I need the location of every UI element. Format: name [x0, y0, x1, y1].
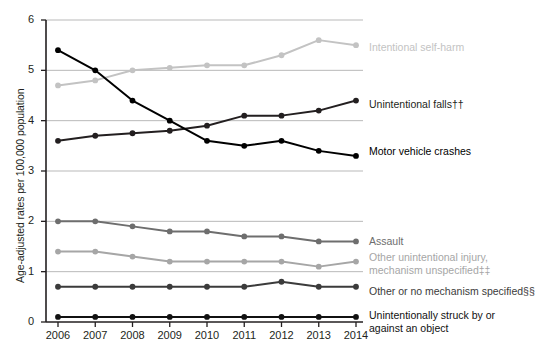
x-tick-label: 2009	[150, 329, 190, 341]
data-point	[130, 130, 136, 136]
data-point	[241, 234, 247, 240]
y-tick-label: 2	[14, 214, 34, 226]
x-tick-label: 2010	[187, 329, 227, 341]
data-point	[241, 62, 247, 68]
series-label-2: Motor vehicle crashes	[369, 145, 471, 158]
y-tick-label: 4	[14, 114, 34, 126]
data-point	[316, 108, 322, 114]
x-tick-label: 2007	[75, 329, 115, 341]
data-point	[167, 128, 173, 134]
gridlines	[46, 20, 363, 272]
data-point	[279, 138, 285, 144]
data-point	[316, 37, 322, 43]
data-point	[92, 218, 98, 224]
series-label-3: Assault	[369, 235, 403, 248]
x-tick-label: 2008	[113, 329, 153, 341]
data-point	[92, 284, 98, 290]
data-point	[92, 314, 98, 320]
data-point	[55, 218, 61, 224]
data-point	[204, 62, 210, 68]
data-point	[353, 284, 359, 290]
y-tick-label: 0	[14, 315, 34, 327]
y-tick-label: 5	[14, 63, 34, 75]
x-tick-label: 2013	[299, 329, 339, 341]
series-label-5: Other or no mechanism specified§§	[369, 285, 535, 298]
data-point	[92, 133, 98, 139]
series-label-4: Other unintentional injury, mechanism un…	[369, 251, 490, 276]
data-point	[167, 65, 173, 71]
data-point	[92, 67, 98, 73]
series-4	[55, 249, 359, 270]
data-point	[167, 229, 173, 235]
series-5	[55, 279, 359, 290]
data-point	[316, 148, 322, 154]
data-point	[279, 52, 285, 58]
data-point	[353, 259, 359, 265]
data-point	[92, 249, 98, 255]
data-point	[167, 259, 173, 265]
data-point	[167, 118, 173, 124]
x-tick-label: 2011	[224, 329, 264, 341]
data-point	[130, 67, 136, 73]
data-point	[130, 254, 136, 260]
data-point	[241, 284, 247, 290]
data-point	[167, 284, 173, 290]
series-0	[55, 37, 359, 88]
data-point	[241, 143, 247, 149]
data-point	[279, 314, 285, 320]
line-chart: Age-adjusted rates per 100,000 populatio…	[0, 0, 543, 353]
y-tick-label: 1	[14, 265, 34, 277]
data-point	[130, 223, 136, 229]
y-tick-label: 6	[14, 13, 34, 25]
data-point	[316, 314, 322, 320]
data-point	[279, 279, 285, 285]
data-point	[204, 229, 210, 235]
y-tick-label: 3	[14, 164, 34, 176]
data-point	[204, 259, 210, 265]
data-point	[204, 123, 210, 129]
data-point	[316, 284, 322, 290]
data-point	[55, 314, 61, 320]
data-point	[279, 234, 285, 240]
data-point	[204, 138, 210, 144]
data-point	[92, 78, 98, 84]
data-point	[316, 264, 322, 270]
series-3	[55, 218, 359, 244]
data-point	[204, 284, 210, 290]
data-point	[130, 314, 136, 320]
x-tick-label: 2006	[38, 329, 78, 341]
data-point	[55, 284, 61, 290]
data-point	[167, 314, 173, 320]
data-point	[279, 259, 285, 265]
data-point	[279, 113, 285, 119]
data-point	[55, 249, 61, 255]
x-tick-label: 2012	[262, 329, 302, 341]
series-label-1: Unintentional falls††	[369, 98, 464, 111]
data-point	[55, 138, 61, 144]
data-point	[316, 239, 322, 245]
data-point	[241, 314, 247, 320]
data-point	[353, 314, 359, 320]
data-point	[55, 83, 61, 89]
series-6	[55, 314, 359, 320]
data-point	[130, 98, 136, 104]
data-point	[353, 239, 359, 245]
series-layer	[55, 37, 359, 320]
data-point	[55, 47, 61, 53]
data-point	[353, 98, 359, 104]
data-point	[204, 314, 210, 320]
series-label-0: Intentional self-harm	[369, 41, 464, 54]
data-point	[130, 284, 136, 290]
series-label-6: Unintentionally struck by or against an …	[369, 309, 495, 334]
data-point	[241, 113, 247, 119]
data-point	[353, 153, 359, 159]
data-point	[353, 42, 359, 48]
data-point	[241, 259, 247, 265]
